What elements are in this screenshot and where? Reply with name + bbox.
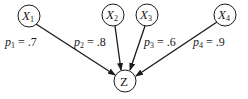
node-z-label: Z (120, 74, 128, 89)
edge-x1-to-z (36, 24, 115, 75)
edge-x3-to-z (130, 26, 145, 70)
edge-x4-to-z (136, 22, 217, 76)
node-x4: X4 (214, 4, 236, 26)
probability-graph-diagram: X1 X2 X3 X4 Z p1 = .7 p2 = .8 p3 = .6 p4… (0, 0, 248, 99)
edge-label-p4: p4 = .9 (192, 35, 225, 50)
node-z: Z (114, 70, 136, 92)
edges (36, 22, 217, 76)
edge-label-p2: p2 = .8 (73, 35, 106, 50)
edge-label-p3: p3 = .6 (143, 35, 176, 50)
node-x1: X1 (18, 5, 40, 27)
node-x2: X2 (102, 4, 124, 26)
edge-x2-to-z (115, 26, 121, 70)
node-x3: X3 (136, 4, 158, 26)
edge-label-p1: p1 = .7 (4, 35, 37, 50)
